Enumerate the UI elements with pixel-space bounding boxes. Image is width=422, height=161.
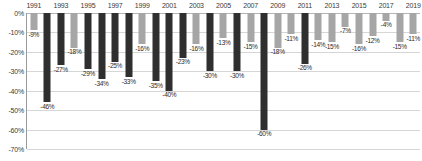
bar-slot-1995[interactable]: -29%	[81, 13, 95, 149]
bar-slot-2014[interactable]: -7%	[339, 13, 353, 149]
bar-2001[interactable]	[166, 13, 173, 91]
bar-slot-2012[interactable]: -14%	[312, 13, 326, 149]
bar-2017[interactable]	[383, 13, 390, 21]
bar-slot-2003[interactable]: -16%	[190, 13, 204, 149]
bar-slot-1992[interactable]: -46%	[41, 13, 55, 149]
bar-value-label-2015: -16%	[352, 45, 366, 52]
bar-slot-1991[interactable]: -9%	[27, 13, 41, 149]
x-axis: 1991199319951997199920012003200520072009…	[27, 0, 420, 13]
bar-1997[interactable]	[112, 13, 119, 62]
bar-slot-2002[interactable]: -23%	[176, 13, 190, 149]
bar-value-label-2013: -15%	[325, 43, 339, 50]
bar-2000[interactable]	[152, 13, 159, 81]
bar-2014[interactable]	[342, 13, 349, 27]
bar-1992[interactable]	[44, 13, 51, 102]
bar-value-label-2010: -11%	[284, 35, 298, 42]
bar-2002[interactable]	[179, 13, 186, 58]
bar-slot-2016[interactable]: -12%	[366, 13, 380, 149]
bar-1994[interactable]	[71, 13, 78, 48]
bar-value-label-2002: -23%	[176, 58, 190, 65]
bar-1993[interactable]	[57, 13, 64, 65]
x-axis-tick-label-2007: 2007	[243, 2, 258, 9]
x-axis-tick-label-2013: 2013	[325, 2, 340, 9]
bar-1998[interactable]	[125, 13, 132, 77]
bar-2019[interactable]	[410, 13, 417, 34]
bar-2003[interactable]	[193, 13, 200, 44]
bar-value-label-1998: -33%	[122, 78, 136, 85]
bar-2013[interactable]	[328, 13, 335, 42]
bar-chart: 1991199319951997199920012003200520072009…	[0, 0, 422, 161]
bar-value-label-2006: -30%	[230, 72, 244, 79]
bar-value-label-2000: -35%	[149, 82, 163, 89]
bar-value-label-1994: -18%	[67, 48, 81, 55]
bar-value-label-2003: -16%	[189, 45, 203, 52]
bar-value-label-2005: -13%	[216, 39, 230, 46]
y-axis-tick-label: -40%	[8, 87, 24, 94]
bar-slot-1997[interactable]: -25%	[108, 13, 122, 149]
bar-slot-1996[interactable]: -34%	[95, 13, 109, 149]
bar-slot-2007[interactable]: -15%	[244, 13, 258, 149]
bar-2016[interactable]	[369, 13, 376, 36]
bar-value-label-1993: -27%	[54, 66, 68, 73]
bar-2004[interactable]	[206, 13, 213, 71]
bar-1996[interactable]	[98, 13, 105, 79]
bar-value-label-2017: -4%	[381, 21, 392, 28]
gridline-neg70	[27, 149, 420, 150]
bar-slot-2008[interactable]: -60%	[257, 13, 271, 149]
y-axis-tick-label: -20%	[8, 48, 24, 55]
bar-value-label-2019: -11%	[406, 35, 420, 42]
bar-1995[interactable]	[84, 13, 91, 69]
bar-value-label-2009: -18%	[271, 48, 285, 55]
bar-slot-2019[interactable]: -11%	[406, 13, 420, 149]
bar-slot-2011[interactable]: -26%	[298, 13, 312, 149]
bar-slot-1999[interactable]: -16%	[135, 13, 149, 149]
bar-2007[interactable]	[247, 13, 254, 42]
bar-1999[interactable]	[139, 13, 146, 44]
x-axis-tick-label-1991: 1991	[26, 2, 41, 9]
bar-2012[interactable]	[315, 13, 322, 40]
bar-1991[interactable]	[30, 13, 37, 30]
bar-2011[interactable]	[301, 13, 308, 64]
x-axis-tick-label-1997: 1997	[108, 2, 123, 9]
bar-slot-2018[interactable]: -15%	[393, 13, 407, 149]
bar-slot-2013[interactable]: -15%	[325, 13, 339, 149]
bar-2005[interactable]	[220, 13, 227, 38]
bar-slot-1993[interactable]: -27%	[54, 13, 68, 149]
x-axis-tick-label-2011: 2011	[298, 2, 312, 9]
bar-2015[interactable]	[356, 13, 363, 44]
bar-2008[interactable]	[261, 13, 268, 130]
bar-slot-2009[interactable]: -18%	[271, 13, 285, 149]
bar-slot-2000[interactable]: -35%	[149, 13, 163, 149]
x-axis-tick-label-2009: 2009	[270, 2, 285, 9]
bar-2018[interactable]	[396, 13, 403, 42]
bar-value-label-2014: -7%	[340, 27, 351, 34]
y-axis-tick-label: -50%	[8, 107, 24, 114]
bar-slot-2005[interactable]: -13%	[217, 13, 231, 149]
bar-slot-2004[interactable]: -30%	[203, 13, 217, 149]
y-axis: 0%-10%-20%-30%-40%-50%-60%-70%	[0, 13, 27, 149]
bar-2010[interactable]	[288, 13, 295, 34]
bar-value-label-2018: -15%	[393, 43, 407, 50]
y-axis-tick-label: 0%	[14, 10, 24, 17]
bar-slot-2010[interactable]: -11%	[284, 13, 298, 149]
y-axis-tick-label: -30%	[8, 68, 24, 75]
bar-slot-2017[interactable]: -4%	[379, 13, 393, 149]
bar-slot-1998[interactable]: -33%	[122, 13, 136, 149]
x-axis-tick-label-2015: 2015	[352, 2, 367, 9]
bar-slot-2015[interactable]: -16%	[352, 13, 366, 149]
bar-2006[interactable]	[234, 13, 241, 71]
x-axis-tick-label-1993: 1993	[53, 2, 68, 9]
bar-value-label-1999: -16%	[135, 45, 149, 52]
x-axis-tick-label-2003: 2003	[189, 2, 204, 9]
x-axis-tick-label-2005: 2005	[216, 2, 231, 9]
bar-value-label-1997: -25%	[108, 62, 122, 69]
bar-value-label-2004: -30%	[203, 72, 217, 79]
bar-value-label-2016: -12%	[366, 37, 380, 44]
bar-value-label-1992: -46%	[40, 103, 54, 110]
bar-slot-1994[interactable]: -18%	[68, 13, 82, 149]
bar-slot-2001[interactable]: -40%	[163, 13, 177, 149]
plot-area: -9%-46%-27%-18%-29%-34%-25%-33%-16%-35%-…	[27, 13, 420, 149]
bar-slot-2006[interactable]: -30%	[230, 13, 244, 149]
y-axis-tick-label: -70%	[8, 146, 24, 153]
bar-2009[interactable]	[274, 13, 281, 48]
